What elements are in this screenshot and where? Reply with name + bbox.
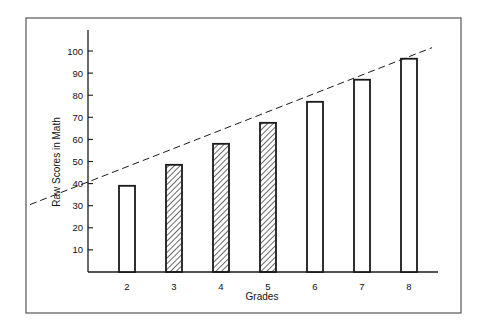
y-tick-label: 90	[72, 68, 83, 79]
plot-area: 1020304050607080901002345678	[30, 30, 438, 292]
y-axis-title: Raw Scores in Math	[51, 117, 62, 206]
x-tick-label: 7	[359, 281, 364, 292]
y-tick-label: 10	[72, 244, 83, 255]
y-tick-label: 50	[72, 156, 83, 167]
y-tick-label: 20	[72, 222, 83, 233]
x-tick-label: 3	[171, 281, 176, 292]
y-tick-label: 70	[72, 112, 83, 123]
y-tick-label: 100	[67, 46, 83, 57]
x-tick-label: 2	[124, 281, 129, 292]
x-axis-title: Grades	[246, 291, 279, 302]
bar-grade-7	[354, 80, 370, 272]
bar-grade-5	[260, 123, 276, 272]
y-tick-label: 30	[72, 200, 83, 211]
bar-grade-8	[401, 59, 417, 272]
x-tick-label: 8	[406, 281, 411, 292]
bar-grade-4	[213, 144, 229, 272]
bar-chart: 1020304050607080901002345678 Raw Scores …	[0, 0, 483, 330]
bar-grade-6	[307, 102, 323, 272]
bar-grade-2	[119, 186, 135, 272]
trend-line	[30, 48, 432, 205]
x-tick-label: 6	[312, 281, 317, 292]
chart-frame	[26, 18, 461, 313]
x-tick-label: 4	[218, 281, 223, 292]
y-tick-label: 60	[72, 134, 83, 145]
y-tick-label: 80	[72, 90, 83, 101]
bar-grade-3	[166, 165, 182, 272]
